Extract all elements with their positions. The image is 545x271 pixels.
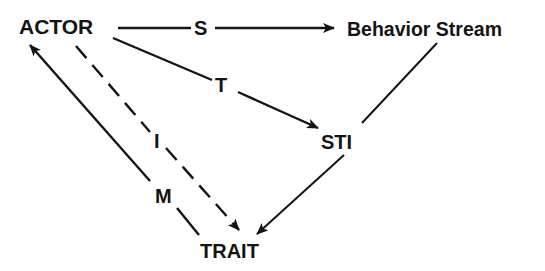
trait-inference-diagram: ACTOR Behavior Stream STI TRAIT S T I M	[0, 0, 545, 271]
edge-i-label: I	[154, 130, 160, 152]
edge-t-line-upper	[113, 38, 212, 80]
edge-behavior-stream-to-sti	[362, 43, 437, 123]
edge-m: M	[30, 45, 199, 235]
edge-m-label: M	[155, 185, 172, 207]
edge-m-line-upper	[30, 45, 150, 181]
edge-i-line-upper	[76, 46, 150, 132]
edge-m-line-lower	[177, 208, 199, 235]
node-sti: STI	[321, 131, 352, 153]
edge-sti-to-trait	[257, 155, 344, 234]
node-trait: TRAIT	[200, 240, 259, 262]
edge-t: T	[113, 38, 318, 128]
edge-s: S	[118, 17, 334, 39]
node-behavior-stream: Behavior Stream	[347, 18, 502, 40]
edge-t-label: T	[215, 74, 227, 96]
edge-s-label: S	[194, 17, 207, 39]
edge-t-line-lower	[238, 92, 318, 128]
node-actor: ACTOR	[19, 15, 93, 38]
edge-i-line-lower	[166, 148, 239, 230]
